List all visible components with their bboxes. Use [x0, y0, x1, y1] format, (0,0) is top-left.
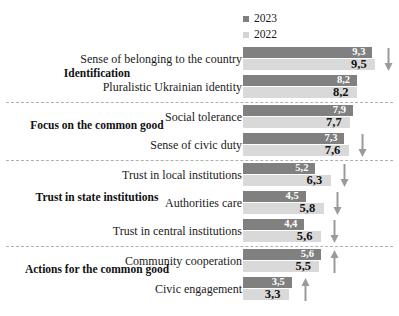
chart-group: Actions for the common goodCommunity coo…: [0, 248, 399, 304]
bar-value-2022: 3,3: [265, 288, 281, 301]
chart-row: Social tolerance7,97,7: [0, 104, 399, 132]
group-divider: [6, 160, 393, 161]
legend-label-2023: 2023: [254, 13, 277, 25]
bar-value-2022: 7,7: [326, 116, 342, 129]
trend-arrow-down-icon: [383, 47, 394, 72]
trend-arrow-up-icon: [329, 249, 340, 274]
chart-row: Community cooperation5,65,5: [0, 248, 399, 276]
legend-label-2022: 2022: [254, 29, 277, 41]
row-label: Sense of civic duty: [10, 138, 242, 153]
chart-group: Trust in state institutionsTrust in loca…: [0, 162, 399, 246]
row-label: Civic engagement: [10, 282, 242, 297]
trend-arrow-down-icon: [339, 163, 350, 188]
chart-row: Sense of civic duty7,37,6: [0, 132, 399, 160]
row-label: Trust in local institutions: [10, 168, 242, 183]
bar-value-2022: 8,2: [333, 86, 349, 99]
chart-row: Sense of belonging to the country9,39,5: [0, 46, 399, 74]
chart-row: Trust in central institutions4,45,6: [0, 218, 399, 246]
group-divider: [6, 246, 393, 247]
row-label: Community cooperation: [10, 254, 242, 269]
chart-group: Focus on the common goodSocial tolerance…: [0, 104, 399, 160]
row-bars: 4,45,6: [243, 219, 399, 245]
trend-arrow-down-icon: [357, 133, 368, 158]
row-label: Authorities care: [10, 196, 242, 211]
legend-swatch-2022-icon: [243, 32, 249, 38]
bar-value-2022: 5,6: [297, 230, 313, 243]
bar-value-2022: 9,5: [351, 58, 367, 71]
group-divider: [6, 102, 393, 103]
row-bars: 5,65,5: [243, 249, 399, 275]
legend-item-2022[interactable]: 2022: [243, 28, 277, 41]
row-bars: 7,37,6: [243, 133, 399, 159]
chart-legend: 2023 2022: [243, 12, 277, 41]
chart-row: Authorities care4,55,8: [0, 190, 399, 218]
chart-row: Pluralistic Ukrainian identity8,28,2: [0, 74, 399, 102]
chart-row: Civic engagement3,53,3: [0, 276, 399, 304]
row-bars: 4,55,8: [243, 191, 399, 217]
bar-value-2022: 5,8: [300, 202, 316, 215]
trend-arrow-down-icon: [332, 191, 343, 216]
bar-value-2022: 6,3: [307, 174, 323, 187]
bar-chart: 2023 2022 IdentificationSense of belongi…: [0, 0, 399, 316]
row-bars: 9,39,5: [243, 47, 399, 73]
legend-item-2023[interactable]: 2023: [243, 12, 277, 25]
bar-value-2022: 7,6: [325, 144, 341, 157]
legend-swatch-2023-icon: [243, 16, 249, 22]
trend-arrow-down-icon: [329, 219, 340, 244]
row-bars: 8,28,2: [243, 75, 399, 101]
row-label: Social tolerance: [10, 110, 242, 125]
row-label: Pluralistic Ukrainian identity: [10, 80, 242, 95]
bar-value-2023: 4,4: [284, 218, 297, 230]
bar-value-2022: 5,5: [295, 260, 311, 273]
trend-arrow-up-icon: [300, 277, 311, 302]
chart-group: IdentificationSense of belonging to the …: [0, 46, 399, 102]
row-bars: 5,26,3: [243, 163, 399, 189]
row-label: Sense of belonging to the country: [10, 52, 242, 67]
row-bars: 3,53,3: [243, 277, 399, 303]
bar-value-2023: 4,5: [286, 190, 299, 202]
row-label: Trust in central institutions: [10, 224, 242, 239]
chart-row: Trust in local institutions5,26,3: [0, 162, 399, 190]
row-bars: 7,97,7: [243, 105, 399, 131]
